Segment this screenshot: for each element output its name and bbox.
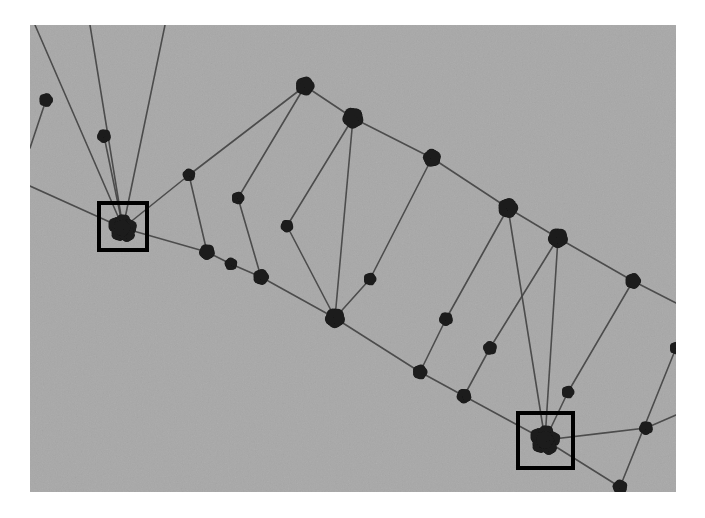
graph-diagram-canvas (0, 0, 705, 518)
scan-grain-overlay (30, 25, 676, 492)
figure-root (0, 0, 705, 518)
